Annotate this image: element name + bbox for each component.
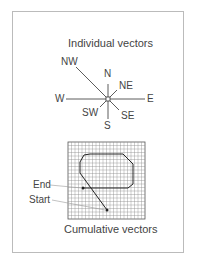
label-sw: SW bbox=[82, 108, 98, 118]
cumulative-vectors-title: Cumulative vectors bbox=[64, 224, 158, 235]
label-e: E bbox=[147, 94, 154, 104]
label-nw: NW bbox=[61, 57, 78, 67]
end-label: End bbox=[33, 180, 51, 190]
origin-marker bbox=[106, 97, 110, 101]
start-point bbox=[106, 209, 109, 212]
start-label: Start bbox=[29, 195, 50, 205]
label-ne: NE bbox=[119, 81, 133, 91]
label-w: W bbox=[55, 94, 64, 104]
label-se: SE bbox=[121, 111, 134, 121]
label-s: S bbox=[104, 121, 111, 131]
label-n: N bbox=[104, 69, 111, 79]
